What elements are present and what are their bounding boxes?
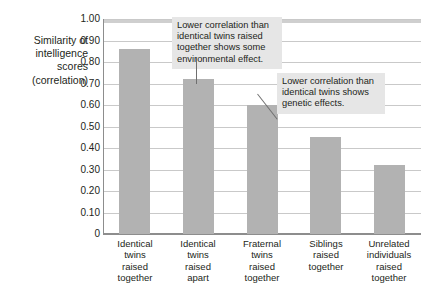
y-axis-tick-label: 0.30 (58, 165, 100, 175)
x-axis-category-label-line: together (358, 272, 420, 283)
y-axis-tick-label: 0.90 (58, 36, 100, 46)
annotation-environmental-effect: Lower correlation than identical twins r… (172, 17, 282, 69)
x-axis-category-label-line: twins (104, 249, 166, 260)
bar (247, 105, 278, 234)
x-axis-category-label-line: raised (167, 261, 229, 272)
x-axis-category-label-line: Fraternal (231, 238, 293, 249)
x-axis-category-label: Unrelatedindividualsraisedtogether (358, 238, 420, 284)
x-axis-category-label-line: twins (231, 249, 293, 260)
x-axis-category-label: Siblingsraisedtogether (295, 238, 357, 272)
annotation-leader-line (196, 58, 197, 84)
x-axis-category-label-line: raised (231, 261, 293, 272)
annotation-line: Lower correlation than (282, 76, 380, 87)
x-axis-category-label-line: raised (295, 249, 357, 260)
annotation-genetic-effects: Lower correlation than identical twins s… (277, 73, 385, 114)
x-axis-category-label: Identicaltwinsraisedapart (167, 238, 229, 284)
x-axis-category-label: Identicaltwinsraisedtogether (104, 238, 166, 284)
y-axis-tick-label: 0.70 (58, 79, 100, 89)
x-axis-category-label-line: Unrelated (358, 238, 420, 249)
annotation-line: genetic effects. (282, 98, 380, 109)
y-axis-tick-label: 0.60 (58, 100, 100, 110)
y-axis-tick-label: 1.00 (58, 14, 100, 24)
annotation-line: identical twins shows (282, 87, 380, 98)
x-axis-category-label-line: Identical (167, 238, 229, 249)
x-axis-category-label-line: apart (167, 272, 229, 283)
bar (119, 49, 150, 234)
x-axis-category-label-line: raised (104, 261, 166, 272)
x-axis-category-label-line: together (295, 261, 357, 272)
y-axis-tick-label: 0 (58, 229, 100, 239)
bar (183, 79, 214, 234)
x-axis-category-label-line: twins (167, 249, 229, 260)
annotation-line: together shows some (177, 42, 277, 53)
y-axis-tick-label: 0.40 (58, 143, 100, 153)
bar (310, 137, 341, 234)
annotation-line: environmental effect. (177, 54, 277, 65)
x-axis-category-labels: IdenticaltwinsraisedtogetherIdenticaltwi… (103, 238, 421, 290)
y-axis-tick-label: 0.80 (58, 57, 100, 67)
bar (374, 165, 405, 234)
y-axis-tick-label: 0.10 (58, 208, 100, 218)
annotation-line: Lower correlation than (177, 20, 277, 31)
x-axis-category-label-line: individuals (358, 249, 420, 260)
x-axis-category-label-line: Siblings (295, 238, 357, 249)
annotation-line: identical twins raised (177, 31, 277, 42)
x-axis-category-label-line: raised (358, 261, 420, 272)
bar-chart: Similarity of intelligence scores (corre… (0, 0, 430, 290)
x-axis-category-label-line: Identical (104, 238, 166, 249)
y-axis-tick-label: 0.50 (58, 122, 100, 132)
x-axis-category-label-line: together (104, 272, 166, 283)
y-axis-tick-labels: 1.000.900.800.700.600.500.400.300.200.10… (58, 0, 100, 290)
x-axis-category-label: Fraternaltwinsraisedtogether (231, 238, 293, 284)
y-axis-tick-label: 0.20 (58, 186, 100, 196)
x-axis-category-label-line: together (231, 272, 293, 283)
